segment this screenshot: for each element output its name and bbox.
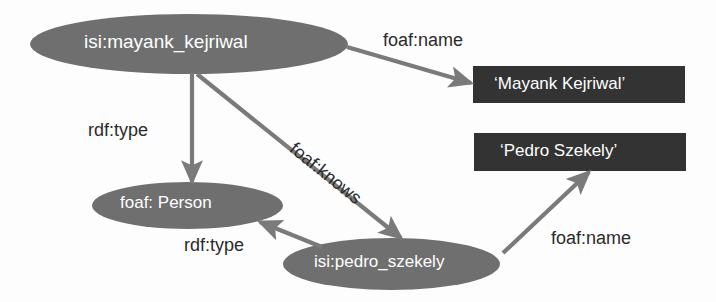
node-literal-mayank-kejriwal[interactable] bbox=[473, 66, 685, 103]
node-literal-pedro-szekely[interactable] bbox=[474, 133, 686, 171]
edge-label-rdf-type-top: rdf:type bbox=[88, 120, 148, 141]
node-ellipse-isi-mayank-kejriwal[interactable] bbox=[30, 14, 348, 74]
edge-mayank-foaf-name bbox=[347, 47, 471, 83]
graph-canvas bbox=[0, 0, 716, 302]
edge-label-rdf-type-bottom: rdf:type bbox=[184, 235, 244, 256]
node-ellipse-foaf-person[interactable] bbox=[92, 182, 283, 229]
rdf-graph-diagram: isi:mayank_kejriwal foaf: Person isi:ped… bbox=[0, 0, 716, 302]
edge-label-foaf-name-bottom: foaf:name bbox=[551, 228, 631, 249]
edge-pedro-rdf-type bbox=[260, 222, 322, 247]
edge-label-foaf-name-top: foaf:name bbox=[383, 30, 463, 51]
